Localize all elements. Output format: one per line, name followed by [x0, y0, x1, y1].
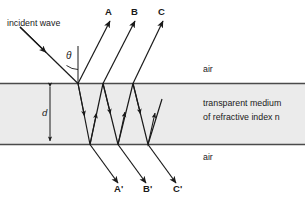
transmitted-ray-b [118, 145, 146, 184]
reflected-ray-c [133, 21, 163, 84]
ray-label-a: A [105, 6, 112, 17]
reflected-ray-b [103, 21, 135, 84]
slab-description-line1: transparent medium [203, 98, 281, 108]
ray-label-c: C [158, 6, 165, 17]
ray-label-c-prime: C' [173, 183, 183, 194]
slab-description-line2: of refractive index n [203, 112, 280, 122]
incident-wave-label: incident wave [7, 18, 60, 28]
transmitted-ray-a [90, 145, 118, 184]
incident-ray-arrowhead [20, 27, 46, 52]
reflected-ray-a [78, 21, 110, 84]
theta-label: θ [66, 50, 71, 61]
ray-label-a-prime: A' [114, 183, 124, 194]
theta-arc [67, 66, 79, 70]
air-label-bottom: air [203, 152, 213, 162]
transmitted-ray-c [148, 145, 176, 184]
air-label-top: air [203, 64, 213, 74]
figure-canvas: incident wave θ d A B C A' B' C' air tra… [0, 0, 305, 199]
thickness-label: d [42, 107, 47, 118]
ray-label-b: B [131, 6, 138, 17]
ray-label-b-prime: B' [143, 183, 153, 194]
